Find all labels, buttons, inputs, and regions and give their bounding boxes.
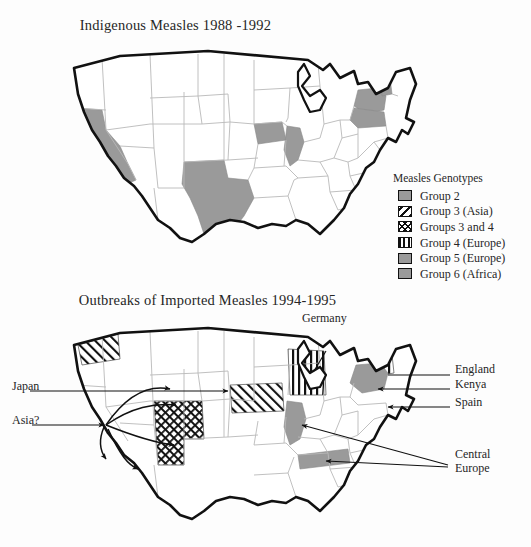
legend-label: Group 3 (Asia)	[420, 205, 493, 217]
legend-item-groups-3-and-4: Groups 3 and 4	[398, 219, 531, 235]
arrow-to-southwest	[100, 427, 106, 459]
annotation-kenya: Kenya	[455, 378, 486, 391]
legend-swatch-solid-gray	[398, 190, 412, 201]
annotation-england: England	[455, 363, 495, 376]
annotation-central-europe-line2: Europe	[455, 462, 490, 475]
legend-label: Group 4 (Europe)	[420, 237, 505, 249]
legend: Measles Genotypes Group 2 Group 3 (Asia)…	[393, 172, 531, 282]
indigenous-measles-panel: Indigenous Measles 1988 -1992	[0, 0, 531, 285]
legend-swatch-solid-gray	[398, 253, 412, 264]
region-nebraska-kansas	[230, 383, 284, 413]
imported-measles-panel: Outbreaks of Imported Measles 1994-1995	[0, 285, 531, 547]
annotation-japan: Japan	[12, 380, 39, 393]
legend-item-group-6-africa: Group 6 (Africa)	[398, 266, 531, 282]
legend-label: Group 6 (Africa)	[420, 268, 501, 280]
legend-item-group-3-asia: Group 3 (Asia)	[398, 204, 531, 220]
annotation-germany: Germany	[302, 312, 347, 325]
legend-item-group-5-europe: Group 5 (Europe)	[398, 250, 531, 266]
annotation-asia: Asia?	[12, 414, 39, 427]
legend-swatch-vertical-stripe	[398, 237, 412, 248]
annotation-spain: Spain	[455, 396, 482, 409]
state-iowa	[254, 122, 286, 144]
legend-label: Group 2	[420, 190, 460, 202]
annotation-central-europe-line1: Central	[455, 448, 490, 461]
top-map-title: Indigenous Measles 1988 -1992	[0, 17, 441, 34]
legend-label: Groups 3 and 4	[420, 221, 494, 233]
legend-title: Measles Genotypes	[393, 172, 531, 184]
legend-swatch-cross-hatch	[398, 221, 412, 232]
legend-item-group-4-europe: Group 4 (Europe)	[398, 235, 531, 251]
indigenous-measles-map	[58, 38, 448, 278]
legend-swatch-diagonal-hatch	[398, 206, 412, 217]
imported-measles-map	[58, 315, 448, 540]
legend-item-group-2: Group 2	[398, 188, 531, 204]
legend-swatch-solid-gray	[398, 268, 412, 279]
legend-label: Group 5 (Europe)	[420, 252, 505, 264]
bottom-map-title: Outbreaks of Imported Measles 1994-1995	[0, 292, 473, 309]
